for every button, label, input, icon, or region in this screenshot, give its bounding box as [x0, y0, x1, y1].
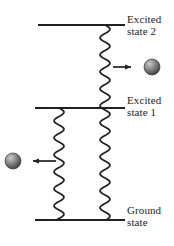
photon-sphere-left	[5, 153, 21, 169]
level-label-excited-state-2-line1: Excited	[127, 14, 161, 26]
level-label-excited-state-1: Excited state 1	[127, 95, 161, 118]
level-label-excited-state-2: Excited state 2	[127, 14, 161, 37]
energy-level-diagram: Excited state 2 Excited state 1 Ground s…	[0, 0, 174, 246]
photon-wave-right-path	[100, 25, 110, 220]
level-label-excited-state-2-line2: state 2	[127, 26, 161, 38]
level-label-excited-state-1-line2: state 1	[127, 107, 161, 119]
level-label-ground-state-line2: state	[127, 217, 161, 229]
photon-wave-left-path	[54, 108, 64, 220]
level-label-excited-state-1-line1: Excited	[127, 95, 161, 107]
level-label-ground-state: Ground state	[127, 205, 161, 228]
level-label-ground-state-line1: Ground	[127, 205, 161, 217]
photon-sphere-right	[144, 59, 160, 75]
